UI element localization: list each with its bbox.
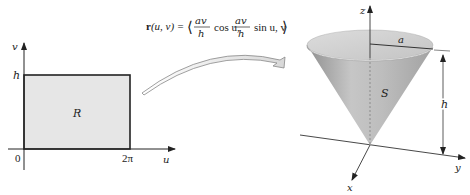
u-axis-label: u bbox=[163, 154, 169, 165]
x-axis-label: x bbox=[347, 182, 353, 193]
parametric-cone-diagram: v u 0 2π h R r(u, v) = ⟨ av h cos u, av … bbox=[0, 0, 470, 195]
frac1-den: h bbox=[198, 28, 204, 39]
v-axis-label: v bbox=[12, 41, 18, 52]
formula-args: (u, v) = bbox=[151, 20, 184, 33]
height-label: h bbox=[441, 98, 448, 111]
origin-label: 0 bbox=[15, 152, 21, 164]
height-extension-top bbox=[434, 50, 450, 51]
mapping-formula: r(u, v) = ⟨ av h cos u, av h sin u, v ⟩ bbox=[146, 15, 288, 39]
parameter-domain-plot: v u 0 2π h R bbox=[8, 41, 175, 170]
region-label: R bbox=[72, 107, 81, 120]
svg-text:r(u, v) =: r(u, v) = bbox=[146, 20, 184, 33]
radius-label: a bbox=[398, 34, 404, 45]
frac1-num: av bbox=[195, 15, 207, 26]
surface-label: S bbox=[381, 87, 389, 100]
frac2-num: av bbox=[235, 15, 247, 26]
z-axis-label: z bbox=[359, 5, 366, 16]
v-tick-h: h bbox=[13, 69, 20, 82]
y-axis bbox=[300, 135, 465, 158]
close-angle: ⟩ bbox=[282, 19, 288, 35]
mapping-arrow bbox=[142, 55, 285, 95]
open-angle: ⟨ bbox=[187, 19, 193, 35]
u-tick-2pi: 2π bbox=[122, 152, 134, 164]
x-axis bbox=[352, 145, 370, 180]
cone-surface-plot: a h S z y x bbox=[300, 5, 465, 193]
y-axis-label: y bbox=[454, 162, 461, 173]
frac2-den: h bbox=[238, 28, 244, 39]
